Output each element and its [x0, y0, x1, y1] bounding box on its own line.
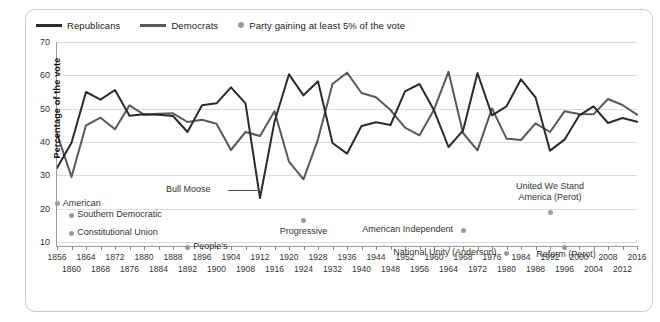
- y-axis-title: Percentage of the vote: [52, 43, 62, 173]
- line-swatch: [140, 24, 166, 27]
- annotation-line: Bull Moose: [166, 184, 211, 195]
- x-tick-label: 1956: [405, 264, 435, 274]
- x-tick-label: 1932: [318, 264, 348, 274]
- third-party-dot-united-we-stand-america-perot: [548, 210, 553, 215]
- annotation-label-american-independent: American Independent: [0, 224, 453, 235]
- third-party-dot-american-independent: [461, 228, 466, 233]
- y-tick-label: 50: [26, 104, 50, 114]
- third-party-dot-progressive: [301, 218, 306, 223]
- x-tick-label: 1972: [463, 264, 493, 274]
- third-party-dot-american: [55, 201, 60, 206]
- annotation-label-american: American: [63, 198, 101, 209]
- x-tick-label: 1980: [492, 264, 522, 274]
- y-tick-label: 40: [26, 137, 50, 147]
- x-tick-label: 1924: [289, 264, 319, 274]
- annotation-line: Southern Democratic: [77, 209, 162, 220]
- line-swatch: [36, 24, 62, 27]
- dot-swatch: [238, 22, 244, 28]
- annotation-label-southern-democratic: Southern Democratic: [77, 209, 162, 220]
- x-tick-label: 2012: [608, 264, 638, 274]
- y-tick-label: 70: [26, 37, 50, 47]
- y-tick-label: 30: [26, 170, 50, 180]
- x-tick-label: 1908: [231, 264, 261, 274]
- y-tick-label: 20: [26, 204, 50, 214]
- annotation-line: United We Stand: [480, 181, 620, 192]
- x-tick-label: 1860: [57, 264, 87, 274]
- chart-legend: RepublicansDemocratsParty gaining at lea…: [36, 18, 425, 32]
- x-tick-label: 1884: [144, 264, 174, 274]
- y-tick-label: 60: [26, 70, 50, 80]
- legend-item-democrats[interactable]: Democrats: [140, 20, 218, 31]
- annotation-label-united-we-stand-america-perot: United We StandAmerica (Perot): [480, 181, 620, 203]
- x-tick-label: 1900: [202, 264, 232, 274]
- annotation-label-bull-moose: Bull Moose: [166, 184, 211, 195]
- annotation-line: American: [63, 198, 101, 209]
- chart-root: RepublicansDemocratsParty gaining at lea…: [0, 0, 660, 322]
- legend-item-label: Republicans: [67, 20, 120, 31]
- x-tick-label: 1996: [550, 264, 580, 274]
- x-tick-label: 1892: [173, 264, 203, 274]
- x-tick-label: 1868: [86, 264, 116, 274]
- legend-item-label: Democrats: [171, 20, 218, 31]
- third-party-dot-southern-democratic: [69, 213, 74, 218]
- legend-item-republicans[interactable]: Republicans: [36, 20, 120, 31]
- x-tick-label: 1916: [260, 264, 290, 274]
- annotation-line: National Unity (Anderson): [0, 247, 496, 258]
- x-tick-label: 1948: [376, 264, 406, 274]
- x-tick-label: 1940: [347, 264, 377, 274]
- legend-item-label: Party gaining at least 5% of the vote: [249, 20, 405, 31]
- annotation-line: Reform (Perot): [496, 249, 636, 260]
- annotation-label-reform-perot: Reform (Perot): [496, 249, 636, 260]
- x-tick-label: 1964: [434, 264, 464, 274]
- annotation-label-national-unity-anderson: National Unity (Anderson): [0, 247, 496, 258]
- x-tick-label: 2004: [579, 264, 609, 274]
- legend-item-party-gaining-at-least-5-of-the-vote[interactable]: Party gaining at least 5% of the vote: [238, 20, 405, 31]
- y-tick-label: 10: [26, 237, 50, 247]
- annotation-line: America (Perot): [480, 192, 620, 203]
- series-line-democrats: [57, 72, 637, 180]
- series-line-republicans: [57, 73, 637, 198]
- bull-moose-leader-line: [228, 190, 260, 191]
- x-tick-label: 1876: [115, 264, 145, 274]
- annotation-line: American Independent: [0, 224, 453, 235]
- x-tick-label: 1988: [521, 264, 551, 274]
- x-tick-mark: [637, 246, 638, 250]
